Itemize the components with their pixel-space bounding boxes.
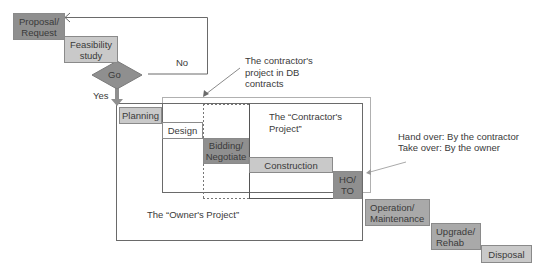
no-label: No bbox=[176, 57, 188, 69]
design-box: Design bbox=[162, 122, 203, 139]
yes-label: Yes bbox=[93, 90, 109, 102]
take-over-label: Take over: By the owner bbox=[398, 142, 500, 154]
operation-maintenance-box: Operation/ Maintenance bbox=[365, 199, 430, 226]
contractors-project-label: The “Contractor's Project” bbox=[269, 111, 342, 134]
upgrade-rehab-box: Upgrade/ Rehab bbox=[431, 223, 481, 250]
feasibility-study-box: Feasibility study bbox=[64, 36, 118, 63]
construction-box: Construction bbox=[249, 157, 333, 173]
hand-over-label: Hand over: By the contractor bbox=[398, 131, 519, 143]
go-label: Go bbox=[108, 69, 121, 81]
planning-box: Planning bbox=[119, 107, 162, 124]
disposal-box: Disposal bbox=[481, 245, 532, 263]
owners-project-label: The “Owner's Project” bbox=[147, 209, 239, 221]
proposal-request-box: Proposal/ Request bbox=[13, 13, 65, 40]
db-contracts-label: The contractor's project in DB contracts bbox=[245, 55, 313, 90]
bidding-negotiate-box: Bidding/ Negotiate bbox=[203, 138, 249, 164]
hoto-box: HO/ TO bbox=[333, 171, 362, 199]
